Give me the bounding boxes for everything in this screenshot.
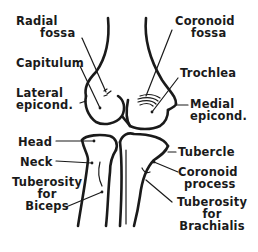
ulna	[120, 133, 168, 226]
label-coronoid-fossa: Coronoid fossa	[175, 15, 235, 39]
label-medial-epicond-line2: epicond.	[190, 110, 247, 122]
label-tuberosity-brachialis: Tuberosity for Brachialis	[172, 196, 252, 232]
label-head: Head	[18, 136, 52, 148]
humerus	[85, 18, 176, 129]
label-coronoid-process-line2: process	[178, 178, 238, 190]
label-capitulum: Capitulum	[16, 57, 84, 69]
label-tubercle: Tubercle	[178, 146, 235, 158]
radius	[78, 135, 117, 226]
label-radial-fossa: Radial fossa	[16, 15, 75, 39]
label-lateral-epicond-line2: epicond.	[16, 99, 73, 111]
label-tuberosity-brachialis-line3: Brachialis	[172, 220, 252, 232]
label-lateral-epicond: Lateral epicond.	[16, 87, 73, 111]
label-neck: Neck	[20, 156, 53, 168]
label-radial-fossa-line2: fossa	[16, 27, 75, 39]
label-tuberosity-biceps-line3: Biceps	[12, 200, 82, 212]
label-tuberosity-biceps: Tuberosity for Biceps	[12, 176, 82, 212]
label-medial-epicond: Medial epicond.	[190, 98, 247, 122]
label-coronoid-process: Coronoid process	[178, 166, 238, 190]
label-trochlea: Trochlea	[180, 67, 236, 79]
label-coronoid-fossa-line2: fossa	[175, 27, 235, 39]
